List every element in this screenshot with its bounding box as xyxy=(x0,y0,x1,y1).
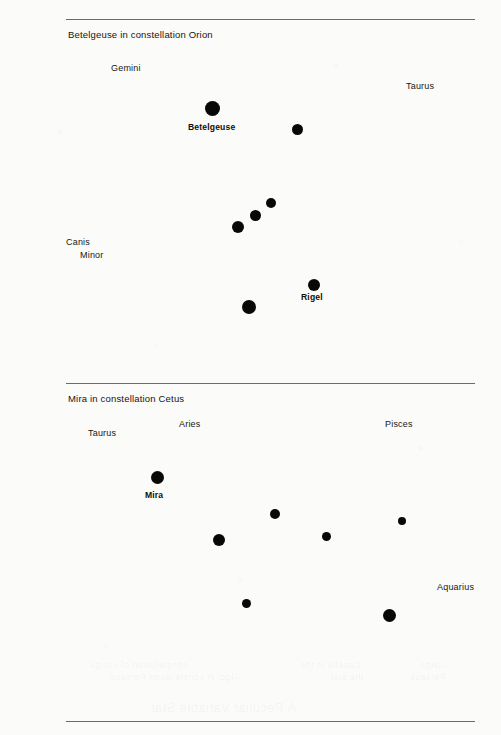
bleed-text: constellation of Auriga xyxy=(90,660,187,670)
star-mintaka xyxy=(232,221,244,233)
bleed-text: Perseus xyxy=(410,672,446,682)
constellation-label-aries: Aries xyxy=(179,419,201,429)
star-label-rigel: Rigel xyxy=(301,292,323,302)
bleed-text: A Peculiar Variable Star xyxy=(150,700,296,715)
bleed-text: the star xyxy=(330,672,363,682)
star-saiph xyxy=(242,300,256,314)
star-label-betelgeuse: Betelgeuse xyxy=(188,122,235,132)
constellation-label-taurus-orion: Taurus xyxy=(406,81,434,91)
star-alnitak xyxy=(266,198,276,208)
constellation-label-taurus-cetus: Taurus xyxy=(88,428,116,438)
star-betelgeuse xyxy=(205,101,220,116)
top-rule xyxy=(66,19,475,20)
panel-title-cetus: Mira in constellation Cetus xyxy=(68,393,184,404)
star-mira xyxy=(151,471,164,484)
star-rigel xyxy=(308,279,320,291)
constellation-label-gemini: Gemini xyxy=(111,63,141,73)
star-chart-page: Betelgeuse in constellation Orion Gemini… xyxy=(0,0,501,735)
star-tau-ceti xyxy=(242,599,251,608)
constellation-label-canis: Canis xyxy=(66,237,90,247)
bleed-text: Auriga xyxy=(420,660,448,670)
star-baten-kaitos xyxy=(322,532,331,541)
star-menkar xyxy=(270,509,280,519)
star-label-mira: Mira xyxy=(145,490,163,500)
constellation-label-minor: Minor xyxy=(80,250,104,260)
star-eta-ceti xyxy=(398,517,406,525)
bottom-rule xyxy=(66,721,475,722)
star-kaffaljidhma xyxy=(213,534,225,546)
bleed-text: Capella in the xyxy=(300,660,361,670)
star-deneb-kaitos xyxy=(383,609,396,622)
star-alnilam xyxy=(250,210,261,221)
star-bellatrix xyxy=(292,124,303,135)
bleed-text: Algol in constellation Perseus xyxy=(110,672,240,682)
middle-rule xyxy=(66,383,475,384)
panel-title-orion: Betelgeuse in constellation Orion xyxy=(68,29,213,40)
constellation-label-pisces: Pisces xyxy=(385,419,413,429)
constellation-label-aquarius: Aquarius xyxy=(437,582,474,592)
